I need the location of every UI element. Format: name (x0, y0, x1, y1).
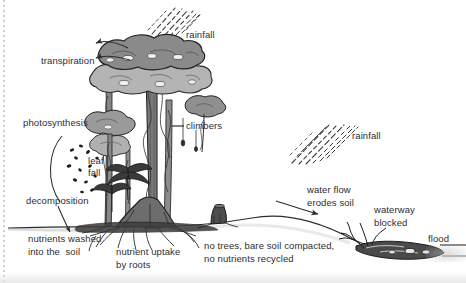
rain-streaks-icon-right (290, 124, 358, 164)
label-rainfall-left: rainfall (186, 29, 215, 41)
label-no-trees-line1: no trees, bare soil compacted, (204, 240, 334, 252)
scan-bottom-artifact (0, 272, 466, 283)
label-transpiration: transpiration (41, 55, 95, 67)
label-nutrients-washed-line1: nutrients washed (28, 233, 101, 245)
label-leaf-fall-line1: leaf (88, 155, 104, 167)
label-decomposition: decomposition (26, 195, 89, 207)
label-waterway-line1: waterway (374, 204, 415, 216)
label-photosynthesis: photosynthesis (23, 117, 88, 129)
root-mat-icon (75, 222, 218, 232)
diagram-page: rainfall transpiration photosynthesis cl… (0, 0, 466, 283)
label-rainfall-right: rainfall (352, 130, 381, 142)
arc-arrow-icon-photosynthesis (50, 136, 62, 202)
label-climbers: climbers (186, 120, 222, 132)
tree-canopy-icon-subleft (85, 110, 135, 135)
label-water-flow-line1: water flow (307, 184, 351, 196)
label-waterway-line2: blocked (374, 217, 407, 229)
scan-smudge-artifact (426, 246, 466, 262)
label-nutrients-washed-line2: into the soil (28, 246, 80, 258)
label-nutrient-uptake-line1: nutrient uptake (116, 246, 180, 258)
arrow-icon-nutrients (58, 206, 70, 232)
label-flood: flood (428, 233, 449, 245)
label-nutrient-uptake-line2: by roots (116, 259, 151, 271)
label-leaf-fall-line2: fall (88, 167, 101, 179)
label-water-flow-line2: erodes soil (307, 197, 354, 209)
label-no-trees-line2: no nutrients recycled (204, 253, 294, 265)
